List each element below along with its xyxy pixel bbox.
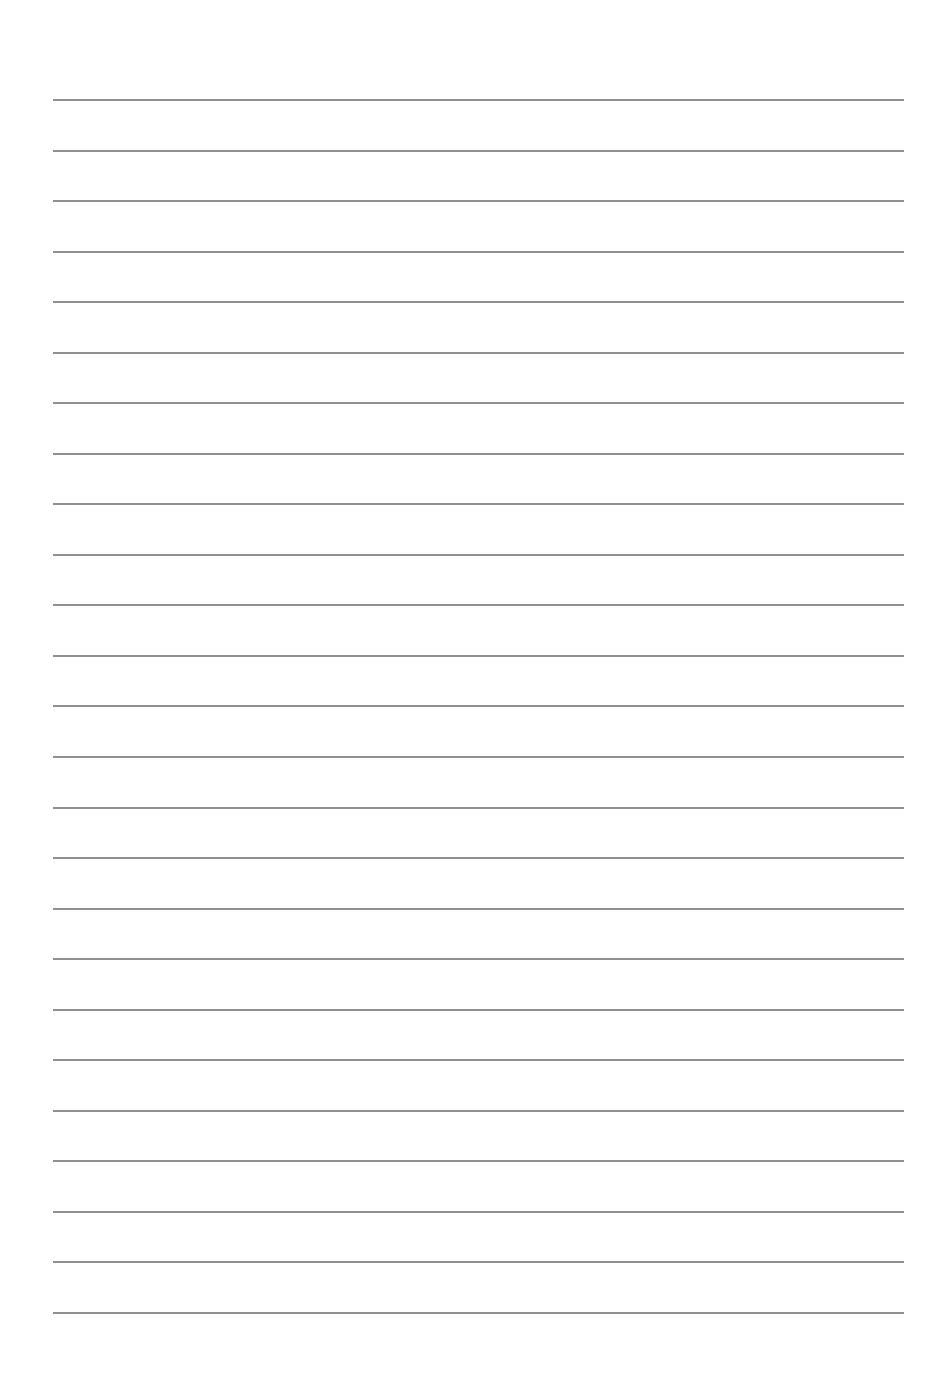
ruled-line — [53, 1160, 904, 1162]
ruled-line — [53, 1211, 904, 1213]
ruled-line — [53, 705, 904, 707]
ruled-line — [53, 99, 904, 101]
lined-paper-page — [0, 0, 944, 1377]
ruled-line — [53, 402, 904, 404]
ruled-line — [53, 503, 904, 505]
ruled-line — [53, 1110, 904, 1112]
ruled-line — [53, 908, 904, 910]
ruled-line — [53, 453, 904, 455]
ruled-line — [53, 857, 904, 859]
ruled-line — [53, 554, 904, 556]
ruled-line — [53, 1312, 904, 1314]
ruled-line — [53, 807, 904, 809]
ruled-line — [53, 251, 904, 253]
ruled-line — [53, 1261, 904, 1263]
ruled-line — [53, 1009, 904, 1011]
ruled-line — [53, 352, 904, 354]
ruled-line — [53, 756, 904, 758]
ruled-line — [53, 604, 904, 606]
ruled-line — [53, 200, 904, 202]
ruled-line — [53, 1059, 904, 1061]
ruled-line — [53, 655, 904, 657]
ruled-line — [53, 958, 904, 960]
ruled-line — [53, 150, 904, 152]
ruled-line — [53, 301, 904, 303]
